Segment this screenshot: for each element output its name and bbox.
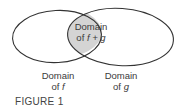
- figure-caption: FIGURE 1: [15, 96, 64, 107]
- domain-f-label: Domain of f: [38, 70, 78, 92]
- intersection-label: Domain of f + g: [71, 21, 111, 43]
- domain-g-label: Domain of g: [101, 70, 141, 92]
